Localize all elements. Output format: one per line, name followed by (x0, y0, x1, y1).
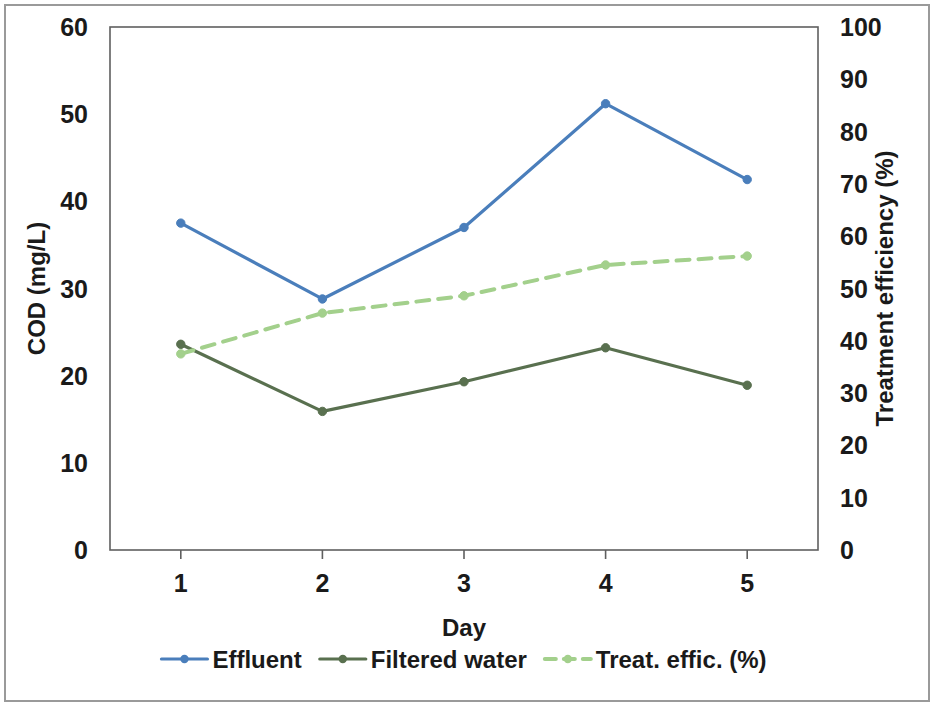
y-axis-title: COD (mg/L) (23, 222, 50, 355)
series-marker-1 (460, 378, 468, 386)
y2-axis-tick-label: 50 (840, 275, 868, 303)
chart-figure: 0102030405060010203040506070809010012345… (0, 0, 936, 714)
y2-axis-title: Treatment efficiency (%) (871, 150, 898, 426)
legend-marker-sample-2[interactable] (564, 655, 572, 663)
y2-axis-tick-label: 90 (840, 65, 868, 93)
y2-axis-tick-label: 20 (840, 431, 868, 459)
y2-axis-tick-label: 0 (840, 536, 854, 564)
y2-axis-tick-label: 30 (840, 379, 868, 407)
series-marker-2 (601, 261, 609, 269)
y-axis-tick-label: 10 (60, 449, 88, 477)
series-marker-2 (318, 309, 326, 317)
x-axis-tick-label: 4 (599, 569, 613, 597)
legend-marker-sample-0[interactable] (180, 655, 188, 663)
y2-axis-tick-label: 40 (840, 327, 868, 355)
series-marker-1 (177, 340, 185, 348)
legend-label-1[interactable]: Filtered water (371, 646, 527, 673)
x-axis-tick-label: 1 (174, 569, 188, 597)
x-axis-tick-label: 2 (315, 569, 329, 597)
series-marker-0 (743, 175, 751, 183)
legend-label-2[interactable]: Treat. effic. (%) (596, 646, 767, 673)
series-marker-1 (318, 407, 326, 415)
series-marker-1 (601, 344, 609, 352)
y-axis-tick-label: 40 (60, 187, 88, 215)
series-marker-1 (743, 381, 751, 389)
series-marker-2 (743, 252, 751, 260)
series-line-0 (181, 104, 747, 299)
series-marker-0 (460, 223, 468, 231)
y2-axis-tick-label: 70 (840, 170, 868, 198)
y2-axis-tick-label: 10 (840, 484, 868, 512)
y-axis-tick-label: 30 (60, 275, 88, 303)
legend-label-0[interactable]: Effluent (212, 646, 301, 673)
x-axis-title: Day (442, 614, 487, 641)
series-marker-0 (601, 100, 609, 108)
x-axis-tick-label: 3 (457, 569, 471, 597)
series-marker-2 (460, 292, 468, 300)
series-marker-0 (318, 295, 326, 303)
y-axis-tick-label: 60 (60, 13, 88, 41)
series-marker-0 (177, 219, 185, 227)
y2-axis-tick-label: 60 (840, 222, 868, 250)
dual-axis-line-chart: 0102030405060010203040506070809010012345… (0, 0, 936, 714)
legend-marker-sample-1[interactable] (339, 655, 347, 663)
series-line-2 (181, 256, 747, 354)
y2-axis-tick-label: 80 (840, 118, 868, 146)
series-marker-2 (177, 350, 185, 358)
plot-area-border (110, 27, 818, 550)
y-axis-tick-label: 0 (74, 536, 88, 564)
x-axis-tick-label: 5 (740, 569, 754, 597)
y-axis-tick-label: 20 (60, 362, 88, 390)
y-axis-tick-label: 50 (60, 100, 88, 128)
y2-axis-tick-label: 100 (840, 13, 882, 41)
